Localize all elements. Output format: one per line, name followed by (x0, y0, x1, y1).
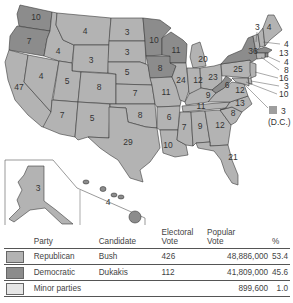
label-nebraska: 5 (125, 67, 130, 77)
label-mississippi: 7 (182, 122, 187, 132)
results-table: Party Candidate ElectoralVote PopularVot… (4, 228, 290, 297)
cell-percent: 53.4 (270, 249, 290, 265)
cell-popular: 899,600 (205, 281, 270, 297)
label-kansas: 7 (133, 88, 138, 98)
cell-electoral: 112 (160, 265, 206, 281)
swatch-democratic (6, 267, 24, 279)
us-electoral-map: 10 7 47 4 4 4 3 5 7 8 5 3 3 5 7 8 29 10 … (0, 0, 293, 225)
label-virginia: 12 (235, 85, 245, 95)
label-montana: 4 (83, 26, 88, 36)
cell-candidate: Bush (97, 249, 160, 265)
label-oregon: 7 (27, 36, 32, 46)
cell-party: Minor parties (32, 281, 97, 297)
table-row-democratic: Democratic Dukakis 112 41,809,000 45.6 (4, 265, 290, 281)
callout-dc-label: (D.C.) (268, 117, 291, 127)
label-michigan: 20 (198, 54, 208, 64)
table-row-minor: Minor parties 899,600 1.0 (4, 281, 290, 297)
label-new-mexico: 5 (90, 113, 95, 123)
label-ohio: 23 (208, 72, 218, 82)
label-wyoming: 3 (89, 55, 94, 65)
header-popular-vote: PopularVote (205, 228, 270, 249)
cell-popular: 41,809,000 (205, 265, 270, 281)
header-candidate: Candidate (97, 228, 160, 249)
dc-swatch (269, 106, 277, 114)
label-missouri: 11 (162, 87, 171, 97)
header-percent: % (270, 228, 290, 249)
label-iowa: 8 (158, 63, 163, 73)
swatch-republican (6, 251, 24, 263)
label-new-york: 36 (248, 46, 258, 56)
label-arizona: 7 (60, 110, 65, 120)
callout-vermont: 3 (255, 22, 260, 32)
cell-percent: 45.6 (270, 265, 290, 281)
label-washington: 10 (31, 12, 41, 22)
label-illinois: 24 (176, 75, 186, 85)
header-party: Party (32, 228, 97, 249)
cell-party: Democratic (32, 265, 97, 281)
label-florida: 21 (228, 152, 238, 162)
label-alaska: 3 (36, 183, 41, 193)
label-minnesota: 10 (149, 35, 159, 45)
label-north-dakota: 3 (125, 27, 130, 37)
label-colorado: 8 (97, 82, 102, 92)
cell-electoral (160, 281, 206, 297)
label-west-virginia: 6 (225, 80, 230, 90)
callout-dc-votes: 3 (281, 106, 286, 116)
state-florida (196, 142, 238, 185)
swatch-minor (6, 283, 24, 295)
label-pennsylvania: 25 (233, 64, 243, 74)
header-electoral-vote: ElectoralVote (160, 228, 206, 249)
label-georgia: 12 (215, 120, 225, 130)
cell-percent: 1.0 (270, 281, 290, 297)
cell-electoral: 426 (160, 249, 206, 265)
label-south-dakota: 3 (125, 47, 130, 57)
label-hawaii: 4 (106, 197, 111, 207)
label-wisconsin: 11 (172, 45, 181, 55)
label-arkansas: 6 (167, 112, 172, 122)
cell-party: Republican (32, 249, 97, 265)
label-oklahoma: 8 (138, 110, 143, 120)
label-tennessee: 11 (197, 101, 206, 111)
label-kentucky: 9 (206, 90, 211, 100)
cell-candidate (97, 281, 160, 297)
label-louisiana: 10 (163, 140, 173, 150)
cell-popular: 48,886,000 (205, 249, 270, 265)
label-texas: 29 (123, 137, 133, 147)
label-nevada: 4 (39, 71, 44, 81)
table-header-row: Party Candidate ElectoralVote PopularVot… (4, 228, 290, 249)
label-idaho: 4 (56, 46, 61, 56)
label-california: 47 (14, 82, 24, 92)
label-alabama: 9 (198, 121, 203, 131)
state-new-jersey (250, 62, 256, 78)
label-south-carolina: 8 (231, 108, 236, 118)
label-utah: 5 (65, 76, 70, 86)
callout-maryland: 10 (279, 89, 289, 99)
cell-candidate: Dukakis (97, 265, 160, 281)
label-maine: 4 (267, 22, 272, 32)
label-indiana: 12 (193, 75, 203, 85)
label-north-carolina: 13 (235, 98, 245, 108)
table-row-republican: Republican Bush 426 48,886,000 53.4 (4, 249, 290, 265)
